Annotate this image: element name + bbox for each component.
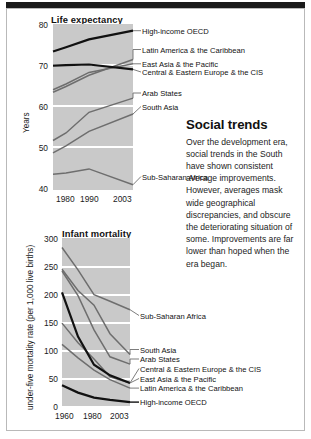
series-line-high-income-oecd [53,31,133,52]
series-label-east-asia-pacific: East Asia & the Pacific [142,61,218,69]
leader-arab-states-im [130,359,139,364]
series-label-central-eastern-europe-cis-im: Central & Eastern Europe & the CIS [140,366,261,374]
series-label-high-income-oecd-im: High-income OECD [140,399,207,407]
series-line-south-asia-im [62,269,130,354]
series-label-latin-america: Latin America & the Caribbean [142,47,245,55]
series-label-high-income-oecd: High-income OECD [142,28,209,36]
series-label-south-asia-im: South Asia [140,347,176,355]
series-line-sub-saharan-africa-im [62,248,130,310]
series-label-arab-states: Arab States [142,90,182,98]
series-line-central-eastern-europe-cis [53,65,133,70]
leader-sub-saharan-africa [133,177,141,185]
leader-sub-saharan-africa-im [130,310,139,316]
series-label-east-asia-pacific-im: East Asia & the Pacific [140,376,216,384]
chart-infant-mortality: Infant mortality under-five mortality ra… [0,215,311,439]
series-label-sub-saharan-africa-im: Sub-Saharan Africa [140,313,206,321]
series-line-high-income-oecd-im [62,385,130,402]
series-label-south-asia: South Asia [142,104,178,112]
series-label-latin-america-im: Latin America & the Caribbean [140,385,243,393]
article-headline: Social trends [186,118,300,133]
leader-arab-states [133,93,141,98]
figure-page: Life expectancy Years 80 70 60 50 40 198… [0,0,311,439]
leader-south-asia-im [130,350,139,355]
leader-central-eastern-europe-cis [133,69,141,72]
leader-south-asia [133,107,141,115]
series-label-central-eastern-europe-cis: Central & Eastern Europe & the CIS [142,69,263,77]
series-line-sub-saharan-africa [53,169,133,185]
leader-latin-america [133,50,141,60]
series-label-arab-states-im: Arab States [140,356,180,364]
